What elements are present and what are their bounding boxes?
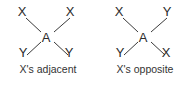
panel-x-opposite: X Y A Y X X's opposite: [97, 0, 193, 87]
node-center: A: [39, 31, 53, 44]
node-top-right: Y: [160, 5, 174, 18]
diagram-x-opposite: X Y A Y X: [97, 0, 193, 64]
caption-x-opposite: X's opposite: [97, 63, 193, 76]
stereochemistry-figure: X X A Y Y X's adjacent X Y A Y X X's opp…: [0, 0, 193, 87]
diagram-x-adjacent: X X A Y Y: [0, 0, 96, 64]
node-bottom-right: Y: [62, 46, 76, 59]
caption-x-adjacent: X's adjacent: [0, 63, 96, 76]
node-top-left: X: [15, 5, 29, 18]
node-center: A: [136, 31, 150, 44]
node-top-left: X: [112, 5, 126, 18]
node-bottom-right: X: [159, 46, 173, 59]
node-bottom-left: Y: [113, 46, 127, 59]
node-bottom-left: Y: [16, 46, 30, 59]
node-top-right: X: [63, 5, 77, 18]
panel-x-adjacent: X X A Y Y X's adjacent: [0, 0, 96, 87]
